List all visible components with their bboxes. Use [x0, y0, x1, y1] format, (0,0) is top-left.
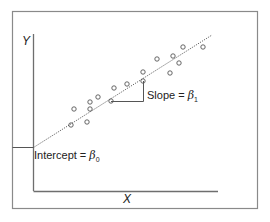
data-point: [88, 107, 92, 111]
data-point: [171, 54, 175, 58]
data-point: [181, 45, 185, 49]
data-point: [141, 70, 145, 74]
y-axis-label: Y: [22, 34, 31, 48]
slope-annotation: Slope = β1: [147, 89, 198, 103]
data-point: [125, 82, 129, 86]
data-point: [177, 61, 181, 65]
x-axis-label: X: [122, 192, 132, 206]
intercept-annotation: Intercept = β0: [34, 149, 100, 163]
data-point: [201, 45, 205, 49]
scatter-points: [69, 45, 205, 127]
data-point: [112, 86, 116, 90]
data-point: [155, 57, 159, 61]
data-point: [96, 95, 100, 99]
data-point: [72, 107, 76, 111]
data-point: [168, 71, 172, 75]
data-point: [85, 120, 89, 124]
data-point: [69, 123, 73, 127]
regression-diagram: Y X Slope = β1 Intercept = β0: [0, 0, 270, 222]
data-point: [88, 100, 92, 104]
figure-frame: [13, 12, 258, 209]
